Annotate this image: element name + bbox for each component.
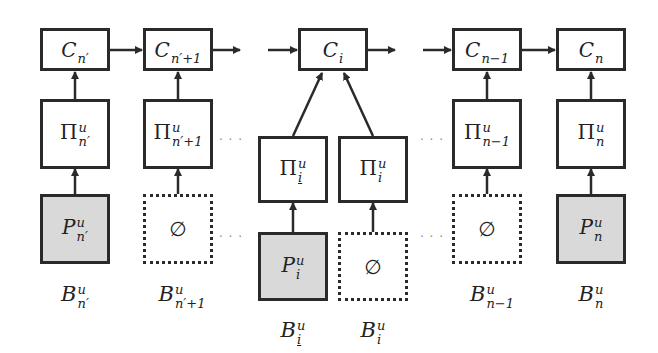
b-label-n-prime: Bun′	[61, 282, 89, 309]
p-label: Pun′	[62, 215, 88, 242]
pi-label: Πun	[578, 120, 605, 147]
pi-label: Πui	[280, 156, 307, 183]
p-label: Pui	[282, 253, 305, 280]
ellipsis-right-upper: · · ·	[420, 133, 444, 147]
empty-set-symbol: ∅	[364, 255, 381, 279]
pi-label: Πun−1	[464, 120, 510, 147]
ellipsis-left-lower: · · ·	[219, 230, 243, 244]
pi-label: Πun′	[60, 120, 90, 147]
pi-box-n-prime-plus-1: Πun′+1	[143, 99, 213, 169]
pi-label: Πun′+1	[154, 120, 203, 147]
b-label-n-minus-1: Bun−1	[470, 282, 514, 309]
pi-box-i-underline: Πui	[258, 136, 328, 203]
pi-box-n-minus-1: Πun−1	[452, 99, 522, 169]
c-box-n-prime: Cn′	[40, 28, 110, 71]
c-box-n: Cn	[556, 28, 626, 71]
c-label: Cn′	[61, 40, 89, 60]
diagram-canvas: Cn′ Cn′+1 Ci Cn−1 Cn Πun′ Πun′+1 Πui Πui…	[0, 0, 658, 353]
p-box-n-prime: Pun′	[40, 194, 110, 264]
pi-box-n-prime: Πun′	[40, 99, 110, 169]
b-label-n-prime-plus-1: Bun′+1	[159, 282, 206, 309]
c-label: Cn−1	[465, 40, 509, 60]
pi-box-i: Πui	[338, 136, 408, 203]
empty-box-n-prime-plus-1: ∅	[143, 194, 213, 264]
c-label: Cn	[579, 40, 604, 60]
ellipsis-right-lower: · · ·	[420, 230, 444, 244]
b-label-i: Bui	[361, 318, 386, 345]
ellipsis-left-upper: · · ·	[219, 133, 243, 147]
c-box-i: Ci	[298, 28, 368, 71]
empty-box-n-minus-1: ∅	[452, 194, 522, 264]
pi-label: Πui	[360, 156, 387, 183]
pi-box-n: Πun	[556, 99, 626, 169]
p-box-n: Pun	[556, 194, 626, 264]
p-box-i-underline: Pui	[258, 232, 328, 301]
empty-set-symbol: ∅	[478, 217, 495, 241]
empty-box-i: ∅	[338, 232, 408, 301]
c-box-n-minus-1: Cn−1	[452, 28, 522, 71]
b-label-n: Bun	[579, 282, 604, 309]
p-label: Pun	[580, 215, 603, 242]
c-box-n-prime-plus-1: Cn′+1	[143, 28, 213, 71]
c-label: Ci	[323, 40, 343, 60]
b-label-i-underline: Bui	[281, 318, 306, 345]
empty-set-symbol: ∅	[169, 217, 186, 241]
c-label: Cn′+1	[155, 40, 202, 60]
